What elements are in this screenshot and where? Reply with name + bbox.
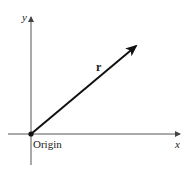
vector-r-arrow: [31, 46, 136, 134]
vector-r-label: r⃗: [96, 61, 111, 73]
x-axis-label: x: [175, 139, 180, 150]
coordinate-plane: [0, 0, 191, 170]
origin-point: [28, 131, 33, 136]
y-axis-label: y: [22, 12, 27, 23]
origin-label: Origin: [33, 139, 62, 150]
diagram-canvas: y x Origin r⃗: [0, 0, 191, 170]
